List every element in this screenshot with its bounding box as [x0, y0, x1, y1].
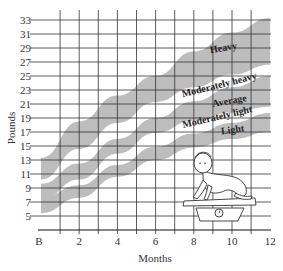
y-tick-label: 19: [20, 112, 32, 124]
x-tick-label: 10: [227, 235, 239, 247]
y-tick-label: 31: [20, 28, 31, 40]
y-tick-label: 15: [20, 140, 32, 152]
y-tick-label: 27: [20, 56, 32, 68]
baby-head: [194, 153, 212, 173]
x-axis-ticks: B24681012: [35, 235, 275, 247]
y-tick-label: 13: [20, 154, 32, 166]
x-tick-label: 6: [153, 235, 159, 247]
y-tick-label: 7: [26, 196, 32, 208]
y-tick-label: 23: [20, 84, 32, 96]
x-tick-label: B: [35, 235, 42, 247]
y-tick-label: 33: [20, 14, 32, 26]
y-tick-label: 21: [20, 98, 31, 110]
y-tick-label: 17: [20, 126, 32, 138]
y-tick-label: 11: [20, 168, 31, 180]
y-tick-label: 25: [20, 70, 32, 82]
x-tick-label: 2: [76, 235, 82, 247]
y-tick-label: 5: [26, 210, 32, 222]
x-tick-label: 12: [265, 235, 276, 247]
growth-chart: 579111315171921232527293133 B24681012 Po…: [0, 0, 283, 271]
y-tick-label: 9: [26, 182, 32, 194]
y-axis-ticks: 579111315171921232527293133: [20, 14, 32, 222]
y-tick-label: 29: [20, 42, 32, 54]
x-axis-title: Months: [138, 252, 172, 264]
y-axis-title: Pounds: [5, 112, 17, 144]
x-tick-label: 8: [191, 235, 197, 247]
x-tick-label: 4: [115, 235, 121, 247]
